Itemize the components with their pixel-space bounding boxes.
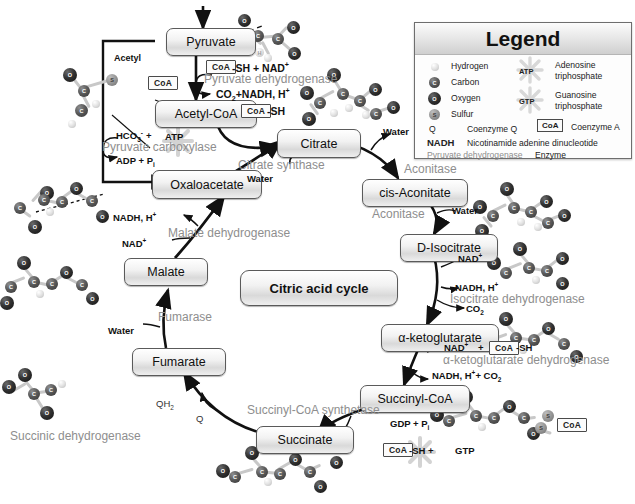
- label-q: Q: [196, 413, 203, 424]
- label-akg-plus: +: [478, 342, 484, 353]
- enzyme-fumarase: Fumarase: [158, 310, 212, 324]
- diagram-canvas: O C C O O H O C C S O C C O C O C O O: [0, 0, 635, 504]
- legend-atp-symbol: ATP: [519, 67, 533, 76]
- legend-carbon-label: Carbon: [451, 77, 479, 87]
- label-aconitase-water-1: Water: [383, 126, 409, 137]
- legend-atp-label-2: triphosphate: [555, 71, 602, 81]
- legend-coenzyme-q-label: Coenzyme Q: [467, 124, 517, 134]
- enzyme-pyruvate-carboxylase: Pyruvate carboxylase: [102, 140, 217, 154]
- enzyme-aconitase-2: Aconitase: [372, 207, 425, 221]
- label-nad-isocitrate: NAD+: [458, 252, 482, 264]
- legend-hydrogen-icon: [431, 63, 439, 71]
- legend-sulfur-label: Sulfur: [451, 109, 473, 119]
- label-pdh-output: CO2+NADH, H+: [216, 87, 290, 103]
- node-fumarate[interactable]: Fumarate: [132, 348, 226, 376]
- node-citrate[interactable]: Citrate: [277, 129, 361, 158]
- legend-panel: Legend Hydrogen C Carbon O Oxygen S Sulf…: [414, 22, 632, 159]
- center-label-citric-acid-cycle: Citric acid cycle: [240, 270, 398, 306]
- legend-coa-label: Coenzyme A: [571, 122, 620, 132]
- enzyme-akg-dehydrogenase: α-ketoglutarate dehydrogenase: [443, 353, 609, 367]
- legend-title: Legend: [415, 23, 631, 55]
- enzyme-citrate-synthase: Citrate synthase: [238, 158, 325, 172]
- label-co2-isocitrate: CO2: [466, 303, 484, 316]
- legend-gtp-label-2: triphosphate: [555, 101, 602, 111]
- enzyme-succinic-dehydrogenase: Succinic dehydrogenase: [10, 429, 141, 443]
- coa-box-free-left: CoA: [148, 76, 178, 90]
- legend-enzyme-example: Pyruvate dehydrogenase: [427, 150, 523, 160]
- legend-sulfur-icon: S: [429, 109, 440, 120]
- label-citrate-synthase-water: Water: [247, 173, 273, 184]
- enzyme-malate-dehydrogenase: Malate dehydrogenase: [168, 226, 290, 240]
- legend-oxygen-label: Oxygen: [451, 93, 481, 103]
- node-d-isocitrate[interactable]: D-Isocitrate: [400, 234, 498, 262]
- node-malate[interactable]: Malate: [124, 258, 208, 286]
- legend-hydrogen-label: Hydrogen: [451, 61, 488, 71]
- label-akg-output: NADH, H++ CO2: [432, 369, 501, 383]
- node-oxaloacetate[interactable]: Oxaloacetate: [152, 170, 262, 199]
- node-cis-aconitate[interactable]: cis-Aconitate: [362, 179, 468, 207]
- label-qh2: QH2: [156, 398, 174, 411]
- legend-enzyme-label: Enzyme: [535, 150, 566, 160]
- label-gdp-pi: GDP + Pi: [390, 418, 429, 431]
- coa-box-free-right: CoA: [557, 418, 587, 432]
- node-succinate[interactable]: Succinate: [256, 426, 354, 454]
- label-mdh-nad: NAD+: [122, 237, 146, 249]
- legend-carbon-icon: C: [429, 77, 440, 88]
- label-akg-nad: NAD+: [444, 341, 468, 353]
- label-akg-coa-sh: -SH: [516, 342, 532, 353]
- label-gtp: GTP: [455, 445, 475, 456]
- label-coa-sh-right: -SH: [267, 105, 285, 117]
- enzyme-pyruvate-dehydrogenase: Pyruvate dehydrogenase: [204, 72, 337, 86]
- label-scs-coa-sh: -SH +: [409, 445, 434, 456]
- legend-nadh-symbol: NADH: [427, 137, 454, 148]
- legend-coenzyme-q-symbol: Q: [429, 124, 436, 134]
- label-adp-pi: ADP + Pi: [116, 155, 155, 168]
- legend-gtp-symbol: GTP: [519, 97, 534, 106]
- label-fumarase-water: Water: [108, 325, 134, 336]
- node-pyruvate[interactable]: Pyruvate: [166, 28, 256, 56]
- label-acetyl: Acetyl: [114, 53, 141, 63]
- enzyme-aconitase-1: Aconitase: [404, 162, 457, 176]
- label-aconitase-water-2: Water: [452, 205, 478, 216]
- legend-nadh-label: Nicotinamide adenine dinucleotide: [467, 138, 598, 148]
- legend-gtp-label-1: Guanosine: [555, 90, 597, 100]
- enzyme-succinyl-coa-synthetase: Succinyl-CoA synthetase: [247, 403, 380, 417]
- legend-oxygen-icon: O: [428, 92, 441, 105]
- legend-coa-box: CoA: [537, 119, 563, 132]
- label-mdh-nadh: NADH, H+: [113, 211, 156, 223]
- legend-atp-label-1: Adenosine: [555, 60, 596, 70]
